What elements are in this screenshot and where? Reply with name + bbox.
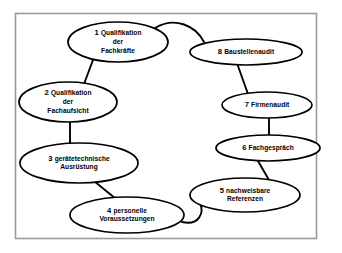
- node-2-line-0: Qualifikation: [51, 89, 92, 97]
- node-3[interactable]: 3 gerätetechnischeAusrüstung: [20, 143, 138, 183]
- node-1-line-2: Fachkräfte: [101, 46, 135, 53]
- node-5[interactable]: 5 nachweisbareReferenzen: [190, 178, 300, 212]
- node-8-line-0: Baustellenaudit: [224, 48, 275, 55]
- node-6-line-0: Fachgespräch: [249, 144, 294, 152]
- node-6-label: 6 Fachgespräch: [242, 143, 294, 152]
- node-7-label: 7 Firmenaudit: [245, 100, 290, 109]
- node-1[interactable]: 1 QualifikationderFachkräfte: [68, 22, 168, 62]
- node-4-label: 4 personelleVoraussetzungen: [99, 206, 154, 223]
- cycle-diagram: 1 QualifikationderFachkräfte2 Qualifikat…: [0, 0, 342, 253]
- node-3-line-1: Ausrüstung: [60, 163, 98, 171]
- node-6[interactable]: 6 Fachgespräch: [216, 135, 320, 161]
- diagram-canvas: 1 QualifikationderFachkräfte2 Qualifikat…: [0, 0, 342, 253]
- node-2-line-2: Fachaufsicht: [47, 106, 89, 113]
- node-2[interactable]: 2 QualifikationderFachaufsicht: [19, 82, 117, 122]
- node-7-line-0: Firmenaudit: [251, 101, 290, 108]
- node-1-line-1: der: [113, 38, 124, 45]
- node-2-line-1: der: [63, 98, 74, 105]
- node-7[interactable]: 7 Firmenaudit: [222, 92, 312, 118]
- node-3-line-0: gerätetechnische: [55, 154, 110, 162]
- node-5-line-1: Referenzen: [227, 195, 263, 202]
- node-8[interactable]: 8 Baustellenaudit: [190, 39, 302, 65]
- node-1-line-0: Qualifikation: [101, 29, 142, 37]
- node-4[interactable]: 4 personelleVoraussetzungen: [70, 197, 184, 233]
- node-5-line-0: nachweisbare: [226, 186, 270, 193]
- node-4-line-1: Voraussetzungen: [99, 215, 154, 223]
- node-8-label: 8 Baustellenaudit: [218, 47, 275, 56]
- node-4-line-0: personelle: [113, 206, 147, 214]
